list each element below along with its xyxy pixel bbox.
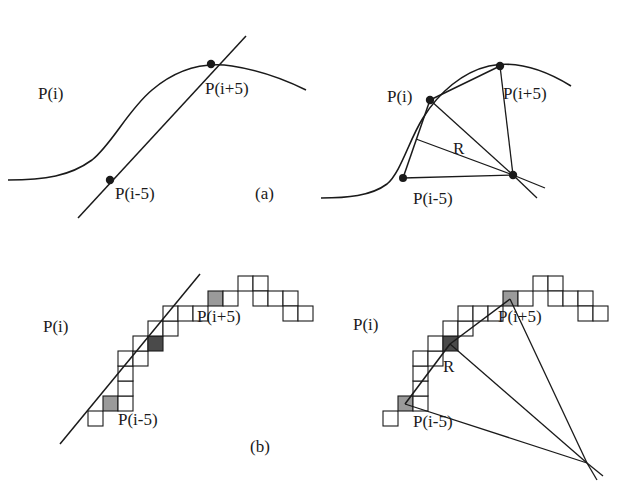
vertex-dot-pi-minus-5 bbox=[399, 174, 407, 182]
chord-line-forward bbox=[430, 66, 500, 100]
subfigure-caption-b: (b) bbox=[250, 438, 270, 455]
chain-cell bbox=[253, 276, 268, 291]
chain-cell-endpoint bbox=[103, 396, 118, 411]
chain-cell bbox=[413, 351, 428, 366]
panel-b-left: P(i) P(i-5) P(i+5) (b) bbox=[0, 248, 313, 497]
radius-line-pi-plus-5 bbox=[500, 66, 513, 175]
radius-group bbox=[405, 299, 587, 463]
label-pi-minus-5: P(i-5) bbox=[118, 411, 158, 428]
chain-cell bbox=[178, 306, 193, 321]
tail-line-lower bbox=[587, 463, 597, 480]
pixel-chain bbox=[383, 276, 608, 426]
chain-cell bbox=[548, 276, 563, 291]
vertex-dot-center bbox=[509, 171, 517, 179]
chain-cell bbox=[383, 411, 398, 426]
panel-a-left: P(i) P(i-5) P(i+5) (a) bbox=[0, 0, 313, 248]
chain-cell bbox=[413, 366, 428, 381]
radius-line-mid bbox=[416, 139, 513, 175]
chain-cell bbox=[133, 336, 148, 351]
chain-cell bbox=[163, 306, 178, 321]
chain-cell-endpoint bbox=[503, 291, 518, 306]
label-pi-minus-5: P(i-5) bbox=[413, 413, 453, 430]
chain-cell bbox=[533, 276, 548, 291]
chain-cell bbox=[443, 321, 458, 336]
chain-cell bbox=[118, 381, 133, 396]
chain-cell bbox=[268, 291, 283, 306]
label-pi-plus-5: P(i+5) bbox=[197, 308, 241, 325]
label-pi-minus-5: P(i-5) bbox=[413, 190, 453, 207]
label-radius-r: R bbox=[453, 140, 464, 157]
panel-b-right: P(i) P(i-5) P(i+5) R bbox=[313, 248, 626, 497]
chain-cell bbox=[593, 306, 608, 321]
chain-cell bbox=[253, 291, 268, 306]
label-pi: P(i) bbox=[43, 318, 69, 335]
panel-b-left-canvas bbox=[0, 248, 313, 497]
radius-line-pi bbox=[450, 344, 587, 463]
label-pi-minus-5: P(i-5) bbox=[115, 185, 155, 202]
tail-line-upper bbox=[587, 463, 603, 476]
chain-cell bbox=[118, 366, 133, 381]
chain-cell-endpoint bbox=[208, 291, 223, 306]
tail-line-upper bbox=[513, 175, 545, 188]
figure-root: P(i) P(i-5) P(i+5) (a) bbox=[0, 0, 626, 497]
chain-cell bbox=[458, 306, 473, 321]
curve-path bbox=[8, 65, 306, 180]
label-pi: P(i) bbox=[387, 88, 413, 105]
chain-cell bbox=[223, 291, 238, 306]
chain-cell bbox=[283, 291, 298, 306]
chain-cell bbox=[428, 336, 443, 351]
radius-line-pi-minus-5 bbox=[403, 175, 513, 178]
label-radius-r: R bbox=[443, 358, 454, 375]
chain-cell bbox=[578, 306, 593, 321]
chain-cell bbox=[118, 396, 133, 411]
label-pi: P(i) bbox=[38, 85, 64, 102]
label-pi: P(i) bbox=[353, 316, 379, 333]
chain-cell bbox=[518, 291, 533, 306]
chain-cell bbox=[238, 276, 253, 291]
panel-a-right-canvas bbox=[313, 0, 626, 248]
chain-cell bbox=[578, 291, 593, 306]
radius-line-pi bbox=[430, 100, 513, 175]
vertex-dot-pi-plus-5 bbox=[207, 60, 215, 68]
panel-a-right: P(i) P(i-5) P(i+5) R bbox=[313, 0, 626, 248]
label-pi-plus-5: P(i+5) bbox=[205, 80, 249, 97]
chain-cell bbox=[563, 291, 578, 306]
label-pi-plus-5: P(i+5) bbox=[498, 308, 542, 325]
chain-cell bbox=[548, 291, 563, 306]
vertex-dot-pi-plus-5 bbox=[496, 62, 504, 70]
chain-cell bbox=[298, 306, 313, 321]
label-pi-plus-5: P(i+5) bbox=[503, 85, 547, 102]
tail-line-lower bbox=[513, 175, 537, 198]
chain-cell bbox=[163, 321, 178, 336]
pixel-chain bbox=[88, 276, 313, 426]
chain-cell bbox=[473, 306, 488, 321]
vertex-dot-pi bbox=[426, 96, 434, 104]
tail-line-group bbox=[587, 463, 603, 480]
chain-cell-pi bbox=[148, 336, 163, 351]
tail-line-group bbox=[513, 175, 545, 198]
panel-b-right-canvas bbox=[313, 248, 626, 497]
subfigure-caption-a: (a) bbox=[255, 185, 274, 202]
chord-group bbox=[403, 66, 500, 178]
chain-cell bbox=[88, 411, 103, 426]
chain-cell bbox=[283, 306, 298, 321]
vertex-dot-pi-minus-5 bbox=[106, 176, 114, 184]
radius-group bbox=[403, 66, 513, 178]
chord-line bbox=[78, 36, 246, 218]
panel-a-left-canvas bbox=[0, 0, 313, 248]
